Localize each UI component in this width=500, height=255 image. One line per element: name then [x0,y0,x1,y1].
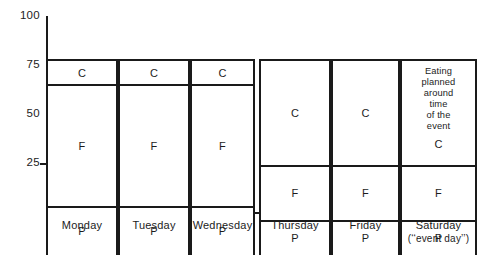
y-axis-labels: 100755025 [0,0,40,255]
segment-label: F [362,187,369,199]
x-axis-label-wednesday: Wednesday [190,219,255,233]
x-axis-label-monday: Monday [46,219,118,233]
bar-segment-friday-f: F [333,165,398,220]
annotation-line: around [421,88,457,99]
x-axis-label-main: Tuesday [132,219,175,231]
x-axis-label-main: Monday [62,219,102,231]
x-axis-label-sub: (‘‘event day’’) [400,233,477,246]
y-tick-mark-25 [40,163,46,165]
y-tick-label-75: 75 [6,59,40,71]
y-tick-label-50: 50 [6,108,40,120]
x-axis-label-main: Thursday [271,219,318,231]
annotation-line: time [427,99,451,110]
stacked-bar-chart: 100755025 CFPCFPCFPCFPCFPEatingplannedar… [0,0,500,255]
bar-segment-saturday-c: Eatingplannedaroundtimeof theeventC [402,59,475,165]
bar-segment-wednesday-c: C [192,59,253,84]
segment-label: C [78,67,86,79]
x-axis-label-main: Saturday [416,219,462,231]
y-tick-label-100: 100 [6,10,40,22]
segment-label: P [291,232,299,244]
segment-label: F [79,140,86,152]
annotation-line: planned [419,77,459,88]
segment-label: C [361,107,369,119]
annotation-line: event [424,121,453,132]
bar-segment-wednesday-f: F [192,84,253,206]
x-axis-label-tuesday: Tuesday [118,219,190,233]
bar-segment-tuesday-f: F [120,84,188,206]
bar-segment-saturday-f: F [402,165,475,220]
segment-label: F [435,187,442,199]
segment-label: F [219,140,226,152]
segment-label: C [291,107,299,119]
segment-label: F [151,140,158,152]
x-axis-label-friday: Friday [331,219,400,233]
y-tick-label-25: 25 [6,157,40,169]
x-axis-label-main: Wednesday [193,219,253,231]
annotation-line: of the [424,110,454,121]
bar-segment-thursday-f: F [261,165,329,220]
x-axis-label-main: Friday [350,219,382,231]
segment-label: C [218,67,226,79]
annotation-line: Eating [422,66,455,77]
segment-label: C [150,67,158,79]
segment-label: P [362,232,370,244]
bar-segment-monday-f: F [48,84,116,206]
bar-segment-thursday-c: C [261,59,329,165]
x-axis-label-saturday: Saturday(‘‘event day’’) [400,219,477,245]
segment-label: C [434,138,442,150]
bar-segment-friday-c: C [333,59,398,165]
bar-segment-monday-c: C [48,59,116,84]
segment-label: F [292,187,299,199]
bar-segment-tuesday-c: C [120,59,188,84]
x-axis-label-thursday: Thursday [259,219,331,233]
annotation-block: Eatingplannedaroundtimeof theeventC [419,61,459,165]
